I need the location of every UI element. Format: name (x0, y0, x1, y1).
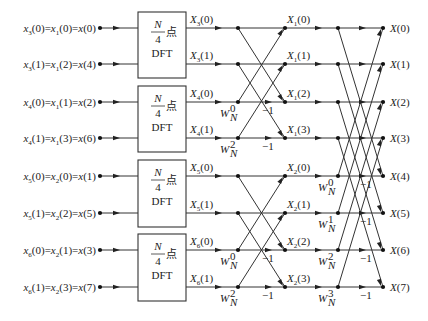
arrowhead-icon (215, 136, 222, 140)
node-dot (236, 136, 240, 140)
dft-point-suffix: 点 (166, 100, 177, 112)
node-dot (381, 211, 385, 215)
dft-point-suffix: 点 (166, 174, 177, 186)
arrowhead-icon (315, 62, 322, 66)
node-dot (283, 174, 287, 178)
minus-one-label: −1 (262, 104, 274, 116)
minus-one-label: −1 (360, 252, 372, 264)
final-output-label: X(5) (389, 207, 410, 220)
arrowhead-icon (359, 62, 366, 66)
twiddle-factor: WN0 (318, 176, 336, 197)
minus-one-label: −1 (360, 289, 372, 301)
dft-label: DFT (152, 195, 173, 207)
twiddle-base: W (220, 143, 230, 155)
input-label: x5(0)=x2(0)=x(1) (22, 170, 96, 185)
twiddle-base: W (318, 181, 328, 193)
twiddle-base: W (220, 107, 230, 119)
fft-flow-graph: x3(0)=x1(0)=x(0)x3(1)=x1(2)=x(4)x4(0)=x1… (0, 0, 428, 321)
input-label: x6(0)=x2(1)=x(3) (22, 244, 96, 259)
arrowhead-icon (359, 136, 366, 140)
node-dot (381, 136, 385, 140)
node-dot (98, 285, 102, 289)
final-output-label: X(0) (389, 22, 410, 35)
stage2-output-label: X1(2) (286, 87, 310, 102)
stage2-output-label: X2(3) (286, 272, 310, 287)
minus-one-label: −1 (360, 178, 372, 190)
twiddle-factor: WN3 (318, 287, 336, 308)
input-label: x4(0)=x1(1)=x(2) (22, 96, 96, 111)
node-dot (283, 285, 287, 289)
twiddle-base: W (318, 292, 328, 304)
minus-one-label: −1 (262, 289, 274, 301)
node-dot (236, 174, 240, 178)
input-label: x3(1)=x1(2)=x(4) (22, 58, 96, 73)
arrowhead-icon (377, 103, 381, 110)
final-output-label: X(2) (389, 96, 410, 109)
node-dot (236, 248, 240, 252)
node-dot (283, 248, 287, 252)
dft-size-numerator: N (153, 92, 162, 104)
arrowhead-icon (113, 62, 120, 66)
arrowhead-icon (215, 26, 222, 30)
twiddle-base: W (318, 255, 328, 267)
node-dot (336, 285, 340, 289)
stage1-output-label: X3(1) (189, 49, 213, 64)
node-dot (98, 62, 102, 66)
twiddle-factor: WN2 (318, 250, 336, 271)
dft-size-denominator: 4 (155, 33, 161, 45)
arrowhead-icon (215, 174, 222, 178)
node-dot (283, 26, 287, 30)
dft-point-suffix: 点 (166, 248, 177, 260)
node-dot (98, 248, 102, 252)
node-dot (283, 100, 287, 104)
stage1-output-label: X3(0) (189, 13, 213, 28)
stage1-output-label: X5(0) (189, 161, 213, 176)
twiddle-base: W (220, 255, 230, 267)
node-dot (336, 100, 340, 104)
dft-label: DFT (152, 47, 173, 59)
stage1-output-label: X4(0) (189, 87, 213, 102)
twiddle-exponent: 2 (230, 138, 236, 150)
minus-one-label: −1 (360, 215, 372, 227)
arrowhead-icon (113, 26, 120, 30)
node-dot (98, 174, 102, 178)
node-dot (381, 285, 385, 289)
final-output-label: X(3) (389, 132, 410, 145)
twiddle-exponent: 3 (328, 287, 334, 299)
dft-point-suffix: 点 (166, 26, 177, 38)
arrowhead-icon (315, 211, 322, 215)
arrowhead-icon (315, 248, 322, 252)
stage2-output-label: X1(3) (286, 123, 310, 138)
dft-size-denominator: 4 (155, 255, 161, 267)
node-dot (236, 62, 240, 66)
arrowhead-icon (113, 174, 120, 178)
dft-block (138, 160, 186, 227)
stage1-output-label: X6(0) (189, 235, 213, 250)
arrowhead-icon (215, 248, 222, 252)
dft-block (138, 234, 186, 301)
arrowhead-icon (377, 139, 381, 146)
arrowhead-icon (113, 285, 120, 289)
stage2-output-label: X2(2) (286, 235, 310, 250)
stage2-output-label: X1(0) (286, 13, 310, 28)
twiddle-factor: WN2 (220, 287, 238, 308)
arrowhead-icon (315, 136, 322, 140)
node-dot (336, 211, 340, 215)
node-dot (283, 211, 287, 215)
node-dot (236, 211, 240, 215)
arrowhead-icon (315, 285, 322, 289)
stage1-output-label: X4(1) (189, 123, 213, 138)
final-output-label: X(6) (389, 244, 410, 257)
minus-one-label: −1 (262, 252, 274, 264)
node-dot (381, 100, 385, 104)
dft-size-numerator: N (153, 166, 162, 178)
final-output-label: X(1) (389, 58, 410, 71)
twiddle-exponent: 2 (230, 287, 236, 299)
twiddle-base: W (318, 218, 328, 230)
node-dot (336, 136, 340, 140)
arrowhead-icon (359, 100, 366, 104)
arrowhead-icon (113, 100, 120, 104)
arrowhead-icon (215, 285, 222, 289)
stage1-output-label: X5(1) (189, 198, 213, 213)
arrowhead-icon (113, 211, 120, 215)
